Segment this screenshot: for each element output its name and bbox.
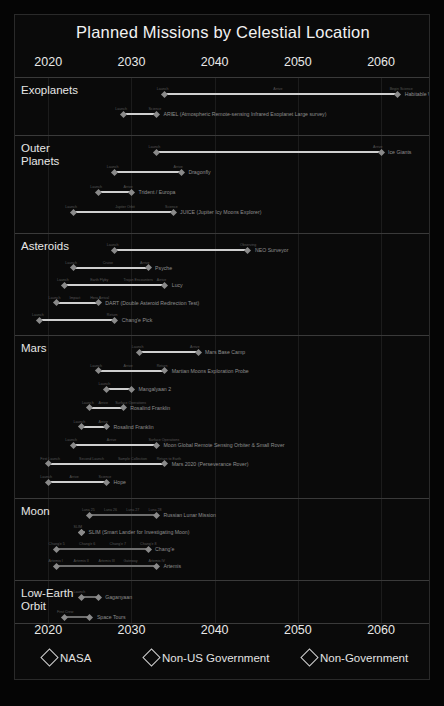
milestone-diamond[interactable] bbox=[153, 442, 160, 449]
task-bar[interactable] bbox=[115, 171, 182, 173]
task-bar[interactable] bbox=[57, 548, 149, 550]
milestone-diamond[interactable] bbox=[45, 460, 52, 467]
milestone-diamond[interactable] bbox=[120, 110, 127, 117]
milestone-label: Launch bbox=[107, 165, 119, 169]
task-bar[interactable] bbox=[90, 407, 123, 409]
milestone-diamond[interactable] bbox=[153, 562, 160, 569]
grid-line bbox=[131, 77, 132, 623]
milestone-label: Surface Operations bbox=[115, 401, 146, 405]
task-bar[interactable] bbox=[156, 151, 381, 153]
milestone-diamond[interactable] bbox=[78, 423, 85, 430]
milestone-diamond[interactable] bbox=[111, 246, 118, 253]
task-bar[interactable] bbox=[57, 565, 157, 567]
milestone-diamond[interactable] bbox=[145, 264, 152, 271]
legend-label: Non-Government bbox=[320, 652, 408, 664]
milestone-label: Launch bbox=[74, 590, 86, 594]
milestone-label: Chang'e 8 bbox=[140, 542, 156, 546]
milestone-diamond[interactable] bbox=[153, 148, 160, 155]
milestone-diamond[interactable] bbox=[170, 208, 177, 215]
legend-item-nasa[interactable]: NASA bbox=[43, 651, 91, 664]
legend-item-non-government[interactable]: Non-Government bbox=[303, 651, 408, 664]
milestone-diamond[interactable] bbox=[145, 545, 152, 552]
x-axis-bottom: 20202030204020502060 bbox=[15, 623, 430, 649]
milestone-diamond[interactable] bbox=[128, 188, 135, 195]
milestone-diamond[interactable] bbox=[95, 188, 102, 195]
milestone-label: Science bbox=[99, 475, 112, 479]
task-bar[interactable] bbox=[140, 351, 198, 353]
milestone-label: Arrive bbox=[273, 87, 282, 91]
milestone-diamond[interactable] bbox=[161, 282, 168, 289]
milestone-label: Surface Operations bbox=[148, 438, 179, 442]
milestone-diamond[interactable] bbox=[86, 511, 93, 518]
milestone-diamond[interactable] bbox=[244, 246, 251, 253]
milestone-label: Launch bbox=[148, 145, 160, 149]
milestone-diamond[interactable] bbox=[78, 528, 85, 535]
milestone-diamond[interactable] bbox=[103, 479, 110, 486]
milestone-diamond[interactable] bbox=[70, 264, 77, 271]
task-bar[interactable] bbox=[115, 249, 248, 251]
category-divider bbox=[15, 580, 430, 581]
milestone-label: First Launch bbox=[40, 457, 60, 461]
milestone-label: Arrive bbox=[99, 401, 108, 405]
milestone-diamond[interactable] bbox=[95, 367, 102, 374]
task-bar[interactable] bbox=[65, 284, 165, 286]
milestone-diamond[interactable] bbox=[161, 90, 168, 97]
milestone-label: Luna 28 bbox=[148, 508, 161, 512]
milestone-diamond[interactable] bbox=[153, 511, 160, 518]
milestone-label: Launch bbox=[99, 382, 111, 386]
task-bar[interactable] bbox=[123, 113, 156, 115]
task-bar[interactable] bbox=[57, 302, 99, 304]
milestone-diamond[interactable] bbox=[53, 299, 60, 306]
milestone-diamond[interactable] bbox=[61, 613, 68, 620]
task-label: Mangalyaan 2 bbox=[138, 386, 171, 392]
task-bar[interactable] bbox=[98, 191, 131, 193]
milestone-diamond[interactable] bbox=[61, 282, 68, 289]
legend-item-non-us-government[interactable]: Non-US Government bbox=[145, 651, 269, 664]
milestone-diamond[interactable] bbox=[111, 168, 118, 175]
task-bar[interactable] bbox=[40, 319, 115, 321]
milestone-diamond[interactable] bbox=[178, 168, 185, 175]
milestone-diamond[interactable] bbox=[78, 593, 85, 600]
milestone-diamond[interactable] bbox=[86, 613, 93, 620]
task-bar[interactable] bbox=[48, 481, 106, 483]
milestone-diamond[interactable] bbox=[111, 317, 118, 324]
task-bar[interactable] bbox=[73, 267, 148, 269]
milestone-diamond[interactable] bbox=[136, 348, 143, 355]
milestone-diamond[interactable] bbox=[36, 317, 43, 324]
chart-legend: NASANon-US GovernmentNon-Government bbox=[15, 651, 430, 677]
milestone-diamond[interactable] bbox=[194, 348, 201, 355]
milestone-diamond[interactable] bbox=[103, 386, 110, 393]
milestone-label: Arrive bbox=[190, 345, 199, 349]
milestone-diamond[interactable] bbox=[394, 90, 401, 97]
milestone-diamond[interactable] bbox=[95, 299, 102, 306]
milestone-diamond[interactable] bbox=[86, 404, 93, 411]
milestone-diamond[interactable] bbox=[103, 423, 110, 430]
task-bar[interactable] bbox=[98, 370, 165, 372]
milestone-diamond[interactable] bbox=[161, 460, 168, 467]
milestone-label: Arrive bbox=[173, 165, 182, 169]
milestone-diamond[interactable] bbox=[95, 593, 102, 600]
milestone-diamond[interactable] bbox=[53, 562, 60, 569]
milestone-diamond[interactable] bbox=[161, 367, 168, 374]
milestone-diamond[interactable] bbox=[45, 479, 52, 486]
milestone-label: Luna 26 bbox=[104, 508, 117, 512]
milestone-label: Launch bbox=[90, 185, 102, 189]
task-bar[interactable] bbox=[73, 444, 156, 446]
task-bar[interactable] bbox=[165, 93, 398, 95]
milestone-diamond[interactable] bbox=[70, 442, 77, 449]
milestone-diamond[interactable] bbox=[120, 404, 127, 411]
milestone-label: Return to Earth bbox=[157, 457, 181, 461]
task-bar[interactable] bbox=[90, 514, 157, 516]
milestone-diamond[interactable] bbox=[378, 148, 385, 155]
x-tick-2060: 2060 bbox=[367, 55, 395, 69]
milestone-diamond[interactable] bbox=[153, 110, 160, 117]
task-bar[interactable] bbox=[48, 463, 164, 465]
task-bar[interactable] bbox=[73, 211, 173, 213]
milestone-diamond[interactable] bbox=[128, 386, 135, 393]
milestone-diamond[interactable] bbox=[70, 208, 77, 215]
diamond-icon bbox=[300, 648, 318, 666]
milestone-label: SLIM bbox=[74, 525, 82, 529]
grid-line bbox=[298, 77, 299, 623]
milestone-diamond[interactable] bbox=[53, 545, 60, 552]
milestone-label: Sample Collection bbox=[118, 457, 147, 461]
